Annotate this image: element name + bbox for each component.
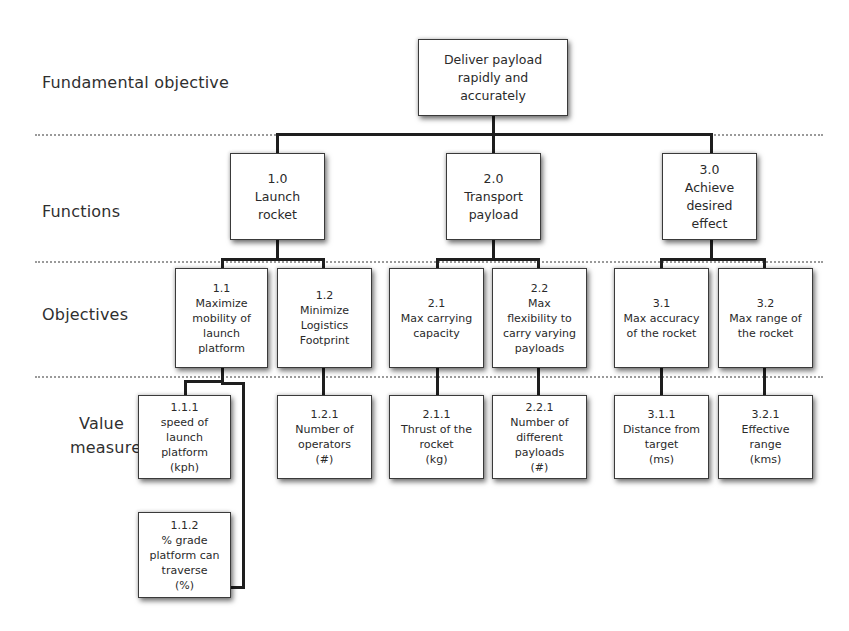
connector-to-2-0	[492, 133, 495, 154]
tier-label-objectives: Objectives	[42, 305, 128, 324]
node-value-3-2-1: 3.2.1 Effective range (kms)	[718, 395, 813, 479]
node-value-1-1-2: 1.1.2 % grade platform can traverse (%)	[138, 512, 231, 598]
connector-1-2-down	[322, 368, 325, 396]
node-text: speed of launch platform (kph)	[161, 415, 208, 475]
tier-label-functions: Functions	[42, 202, 120, 221]
tier-label-value-measures: Value measures	[70, 412, 124, 460]
tier-separator-2	[35, 261, 823, 263]
node-text: Minimize Logistics Footprint	[300, 303, 350, 348]
connector-2-2-down	[537, 368, 540, 396]
node-text: % grade platform can traverse (%)	[150, 533, 220, 593]
connector-3-bus	[660, 258, 766, 261]
tier-label-fundamental-objective: Fundamental objective	[42, 73, 229, 92]
connector-1-1-2-in	[230, 586, 245, 589]
connector-1-1-1-horiz	[184, 380, 224, 383]
node-fundamental-objective: Deliver payload rapidly and accurately	[418, 39, 568, 116]
node-objective-1-2: 1.2 Minimize Logistics Footprint	[277, 268, 372, 368]
node-text: Thrust of the rocket (kg)	[401, 422, 472, 467]
connector-to-3-0	[710, 133, 713, 154]
node-text: Max carrying capacity	[401, 311, 472, 341]
node-value-1-1-1: 1.1.1 speed of launch platform (kph)	[138, 395, 231, 479]
node-code: 2.2	[531, 281, 549, 296]
node-value-1-2-1: 1.2.1 Number of operators (#)	[277, 395, 372, 479]
connector-1-bus	[221, 258, 325, 261]
node-objective-2-1: 2.1 Max carrying capacity	[389, 268, 484, 368]
node-code: 3.1	[653, 296, 671, 311]
tier-separator-3	[35, 376, 823, 378]
node-text: Max accuracy of the rocket	[624, 311, 700, 341]
node-code: 1.0	[268, 170, 288, 188]
node-value-2-2-1: 2.2.1 Number of different payloads (#)	[492, 395, 587, 479]
node-objective-2-2: 2.2 Max flexibility to carry varying pay…	[492, 268, 587, 368]
connector-1-0-down	[276, 240, 279, 259]
node-function-3-0: 3.0 Achieve desired effect	[662, 153, 757, 240]
node-text: Launch rocket	[255, 188, 300, 224]
node-text: Transport payload	[464, 188, 523, 224]
connector-3-0-down	[710, 240, 713, 259]
node-code: 3.2.1	[752, 407, 780, 422]
node-text: Achieve desired effect	[685, 179, 734, 233]
node-text: Number of operators (#)	[295, 422, 353, 467]
connector-to-1-0	[276, 133, 279, 154]
node-text: Effective range (kms)	[742, 422, 790, 467]
node-code: 2.1.1	[423, 407, 451, 422]
node-text: Maximize mobility of launch platform	[192, 296, 251, 356]
connector-2-0-down	[492, 240, 495, 259]
connector-1-1-2-vert	[242, 382, 245, 589]
node-code: 3.2	[757, 296, 775, 311]
node-code: 2.1	[428, 296, 446, 311]
connector-2-1-down	[436, 368, 439, 396]
node-function-2-0: 2.0 Transport payload	[446, 153, 541, 240]
node-objective-1-1: 1.1 Maximize mobility of launch platform	[175, 268, 268, 368]
node-objective-3-1: 3.1 Max accuracy of the rocket	[614, 268, 709, 368]
node-value-2-1-1: 2.1.1 Thrust of the rocket (kg)	[389, 395, 484, 479]
node-text: Deliver payload rapidly and accurately	[444, 51, 542, 105]
node-code: 2.2.1	[526, 400, 554, 415]
connector-3-2-down	[763, 368, 766, 396]
node-code: 3.1.1	[648, 407, 676, 422]
node-text: Max range of the rocket	[729, 311, 801, 341]
node-function-1-0: 1.0 Launch rocket	[230, 153, 325, 240]
node-code: 1.1	[213, 281, 231, 296]
connector-1-1-1-down	[184, 380, 187, 396]
node-code: 1.2	[316, 288, 334, 303]
node-code: 3.0	[700, 161, 720, 179]
connector-2-bus	[436, 258, 540, 261]
node-code: 1.2.1	[311, 407, 339, 422]
node-code: 1.1.1	[171, 400, 199, 415]
node-code: 1.1.2	[171, 518, 199, 533]
node-code: 2.0	[484, 170, 504, 188]
node-text: Max flexibility to carry varying payload…	[503, 296, 576, 356]
node-text: Distance from target (ms)	[623, 422, 700, 467]
node-text: Number of different payloads (#)	[510, 415, 568, 475]
node-value-3-1-1: 3.1.1 Distance from target (ms)	[614, 395, 709, 479]
tier-label-value-line1: Value	[79, 414, 124, 433]
connector-3-1-down	[660, 368, 663, 396]
node-objective-3-2: 3.2 Max range of the rocket	[718, 268, 813, 368]
